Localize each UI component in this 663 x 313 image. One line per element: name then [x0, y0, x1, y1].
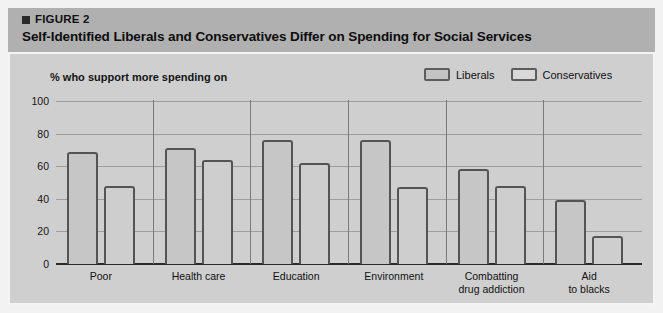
legend-swatch-conservatives	[511, 68, 537, 81]
group-separator	[348, 100, 349, 264]
chart-subtitle: % who support more spending on	[50, 71, 227, 83]
chart-panel: % who support more spending on Liberals …	[8, 52, 655, 305]
plot-area: 020406080100	[56, 101, 642, 264]
y-axis-tick-label: 40	[37, 193, 49, 205]
category-label-line: Environment	[364, 270, 423, 282]
figure-header: FIGURE 2 Self-Identified Liberals and Co…	[8, 8, 655, 52]
category-label-line: Combatting	[465, 270, 519, 282]
gridline	[56, 199, 642, 200]
gridline	[56, 231, 642, 232]
category-label: Education	[273, 270, 320, 283]
category-label-line: to blacks	[568, 283, 609, 295]
legend-swatch-liberals	[424, 68, 450, 81]
category-label: Poor	[90, 270, 112, 283]
bar-conservatives-education	[299, 163, 330, 264]
chart-legend: Liberals Conservatives	[424, 68, 612, 81]
bar-conservatives-aid-to-blacks	[592, 236, 623, 264]
category-label-line: Aid	[582, 270, 597, 282]
category-axis-labels: PoorHealth careEducationEnvironmentComba…	[56, 270, 642, 302]
category-label: Health care	[172, 270, 226, 283]
category-label-line: Education	[273, 270, 320, 282]
bar-conservatives-environment	[397, 187, 428, 264]
category-label: Environment	[364, 270, 423, 283]
category-label-line: Poor	[90, 270, 112, 282]
square-bullet-icon	[22, 16, 30, 24]
category-label-line: Health care	[172, 270, 226, 282]
gridline	[56, 166, 642, 167]
group-separator	[543, 100, 544, 264]
legend-item-conservatives: Conservatives	[511, 68, 613, 81]
x-axis-line	[56, 263, 642, 265]
gridline	[56, 134, 642, 135]
gridline	[56, 101, 642, 102]
y-axis-tick-label: 20	[37, 225, 49, 237]
bar-conservatives-combatting-drug-addiction	[495, 186, 526, 264]
bar-liberals-health-care	[165, 148, 196, 264]
y-axis-tick-label: 60	[37, 160, 49, 172]
figure-panel: FIGURE 2 Self-Identified Liberals and Co…	[0, 0, 663, 313]
y-axis-tick-label: 0	[43, 258, 49, 270]
group-separator	[250, 100, 251, 264]
figure-title: Self-Identified Liberals and Conservativ…	[22, 29, 532, 45]
category-label-line: drug addiction	[459, 283, 525, 295]
bar-conservatives-poor	[104, 186, 135, 264]
category-label: Aidto blacks	[568, 270, 609, 295]
figure-number-label: FIGURE 2	[35, 14, 90, 25]
y-axis-tick-label: 100	[31, 95, 49, 107]
legend-label-liberals: Liberals	[456, 69, 495, 81]
category-label: Combattingdrug addiction	[459, 270, 525, 295]
group-separator	[153, 100, 154, 264]
group-separator	[446, 100, 447, 264]
legend-label-conservatives: Conservatives	[543, 69, 613, 81]
legend-item-liberals: Liberals	[424, 68, 495, 81]
y-axis-tick-label: 80	[37, 128, 49, 140]
figure-number-row: FIGURE 2	[22, 14, 90, 25]
bar-conservatives-health-care	[202, 160, 233, 264]
bar-liberals-poor	[67, 152, 98, 264]
bar-liberals-environment	[360, 140, 391, 264]
bar-liberals-aid-to-blacks	[555, 200, 586, 264]
bar-liberals-education	[262, 140, 293, 264]
bar-liberals-combatting-drug-addiction	[458, 169, 489, 264]
